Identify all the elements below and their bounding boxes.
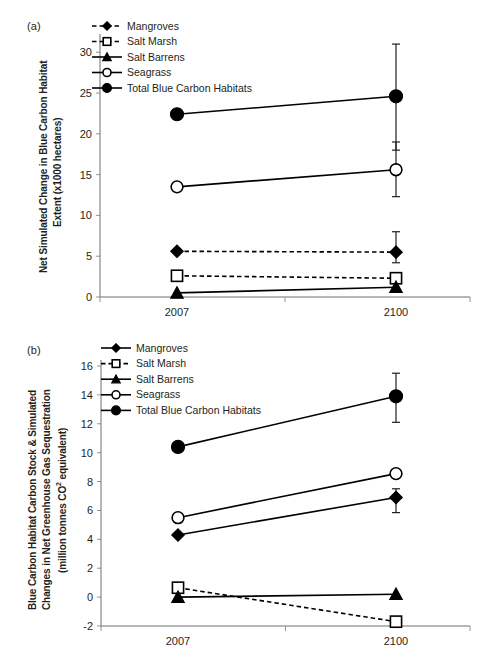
data-point-open-circle [171,181,183,193]
data-point-open-circle [172,512,184,524]
legend-label: Salt Barrens [127,51,185,63]
data-point-filled-circle [171,440,184,453]
y-tick-label: 5 [86,250,92,262]
y-tick-label: 16 [81,360,93,372]
series-line [177,251,396,252]
data-point-filled-diamond [171,245,183,257]
series-line [178,594,396,597]
data-point-filled-diamond [390,491,402,503]
y-tick-label: 4 [87,533,93,545]
legend-label: Mangroves [136,342,188,354]
series-seagrass [171,164,402,193]
series-salt-marsh [171,270,401,284]
data-point-filled-diamond [390,246,402,258]
y-tick-label: 10 [81,447,93,459]
x-tick-label: 2007 [165,306,189,318]
y-tick-label: 12 [81,418,93,430]
data-point-filled-circle [389,90,402,103]
panel-b-plot: -2024681012141620072100MangrovesSalt Mar… [0,332,490,664]
series-line [177,287,396,293]
data-point-filled-circle [103,84,112,93]
legend-label: Total Blue Carbon Habitats [127,82,252,94]
y-tick-label: 0 [87,591,93,603]
y-tick-label: 30 [80,46,92,58]
panel-b: (b) Blue Carbon Habitat Carbon Stock & S… [0,332,490,664]
series-salt-barrens [171,281,402,298]
series-seagrass [172,468,402,524]
x-tick-label: 2007 [166,635,190,647]
y-tick-label: -2 [83,620,93,632]
series-salt-marsh [172,582,401,627]
legend-label: Salt Marsh [136,357,186,369]
series-total-blue-carbon-habitats [170,90,402,121]
x-tick-label: 2100 [384,306,408,318]
series-line [178,474,396,518]
data-point-open-circle [112,391,120,399]
data-point-open-circle [103,68,111,76]
series-mangroves [171,245,402,258]
series-line [177,170,396,187]
series-total-blue-carbon-habitats [171,390,402,454]
y-tick-label: 25 [80,87,92,99]
data-point-open-circle [390,468,402,480]
series-line [178,497,396,535]
legend-label: Seagrass [127,66,171,78]
data-point-open-circle [390,164,402,176]
legend: MangrovesSalt MarshSalt BarrensSeagrassT… [92,20,252,94]
data-point-filled-diamond [103,22,111,30]
panel-a: (a) Net Simulated Change in Blue Carbon … [0,0,490,332]
data-point-open-square [390,616,401,627]
data-point-filled-circle [170,108,183,121]
data-point-open-square [103,38,111,46]
y-tick-label: 10 [80,209,92,221]
series-line [177,276,396,278]
data-point-filled-circle [112,406,121,415]
legend-label: Salt Barrens [136,373,194,385]
y-tick-label: 2 [87,562,93,574]
legend-label: Salt Marsh [127,35,177,47]
series-mangroves [172,491,402,541]
y-tick-label: 8 [87,476,93,488]
series-line [178,588,396,622]
x-tick-label: 2100 [384,635,408,647]
legend: MangrovesSalt MarshSalt BarrensSeagrassT… [101,342,261,416]
y-tick-label: 6 [87,504,93,516]
y-tick-label: 20 [80,128,92,140]
data-point-open-square [171,270,182,281]
data-point-filled-diamond [172,529,184,541]
data-point-open-square [112,360,120,368]
data-point-filled-diamond [112,344,120,352]
legend-label: Seagrass [136,388,180,400]
data-point-filled-circle [389,390,402,403]
legend-label: Mangroves [127,20,179,32]
panel-a-plot: 05101520253020072100MangrovesSalt MarshS… [0,0,490,332]
legend-label: Total Blue Carbon Habitats [136,404,261,416]
y-tick-label: 14 [81,389,93,401]
series-salt-barrens [172,588,402,602]
series-line [177,96,396,114]
y-tick-label: 15 [80,169,92,181]
y-tick-label: 0 [86,291,92,303]
